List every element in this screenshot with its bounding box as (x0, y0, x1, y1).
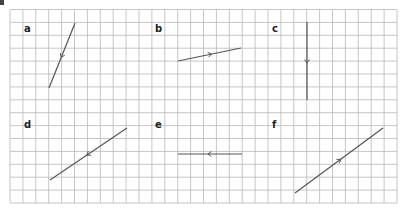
panel-label-c: c (272, 23, 278, 34)
panel-label-b: b (155, 23, 162, 34)
grid-canvas: abcdef (0, 0, 401, 213)
panel-label-f: f (272, 119, 277, 130)
vector-grid-diagram: abcdef (0, 0, 401, 213)
vector-line-b (178, 48, 241, 61)
panel-label-e: e (155, 119, 162, 130)
panel-label-a: a (24, 23, 31, 34)
vector-line-f (295, 128, 383, 193)
panel-label-d: d (24, 119, 31, 130)
vector-line-a (49, 23, 75, 88)
